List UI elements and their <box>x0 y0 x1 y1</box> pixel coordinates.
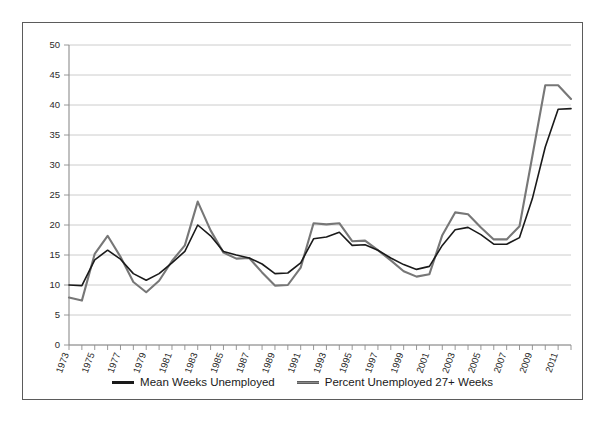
x-tick-label: 1983 <box>182 351 200 375</box>
y-tick-label: 10 <box>49 279 60 290</box>
y-tick-label: 30 <box>49 159 60 170</box>
x-tick-label: 1991 <box>285 351 303 375</box>
x-tick-label: 2003 <box>439 351 457 375</box>
x-tick-label: 1985 <box>208 351 226 375</box>
y-tick-label: 45 <box>49 69 60 80</box>
legend-item-percent-unemployed-27-weeks: Percent Unemployed 27+ Weeks <box>297 376 493 388</box>
x-tick-label: 1989 <box>259 351 277 375</box>
y-tick-label: 15 <box>49 249 60 260</box>
x-tick-label: 1997 <box>362 351 380 375</box>
x-tick-label: 1975 <box>79 351 97 375</box>
chart-figure: 05101520253035404550 1973197519771979198… <box>22 22 583 400</box>
x-tick-label: 1981 <box>156 351 174 375</box>
chart-legend: Mean Weeks Unemployed Percent Unemployed… <box>23 373 582 391</box>
x-tick-label: 2007 <box>491 351 509 375</box>
x-tick-label: 1977 <box>105 351 123 375</box>
series-lines <box>69 85 571 300</box>
y-tick-label: 35 <box>49 129 60 140</box>
x-tick-label: 2011 <box>543 351 560 374</box>
y-tick-label: 25 <box>49 189 60 200</box>
line-chart-plot: 05101520253035404550 1973197519771979198… <box>23 23 581 398</box>
x-tick-label: 2005 <box>465 351 483 375</box>
legend-item-mean-weeks-unemployed: Mean Weeks Unemployed <box>112 376 275 388</box>
x-tick-label: 1979 <box>131 351 149 375</box>
x-tick-label: 1995 <box>336 351 354 375</box>
y-tick-label: 0 <box>55 339 60 350</box>
y-tick-label: 50 <box>49 39 60 50</box>
x-tick-label: 1987 <box>234 351 252 375</box>
x-tick-label: 2001 <box>414 351 432 375</box>
x-axis: 1973197519771979198119831985198719891991… <box>53 345 571 375</box>
legend-label-mean-weeks-unemployed: Mean Weeks Unemployed <box>140 376 275 388</box>
legend-swatch-mean-weeks-unemployed <box>112 381 134 384</box>
x-tick-label: 2009 <box>517 351 535 375</box>
series-line-percent-unemployed-27-weeks <box>69 85 571 300</box>
x-tick-label: 1973 <box>53 351 71 375</box>
y-axis: 05101520253035404550 <box>49 39 69 350</box>
legend-label-percent-unemployed-27-weeks: Percent Unemployed 27+ Weeks <box>325 376 493 388</box>
x-tick-label: 1993 <box>311 351 329 375</box>
x-tick-label: 1999 <box>388 351 406 375</box>
y-tick-label: 20 <box>49 219 60 230</box>
y-tick-label: 5 <box>55 309 60 320</box>
y-tick-label: 40 <box>49 99 60 110</box>
gridlines <box>69 45 571 345</box>
legend-swatch-percent-unemployed-27-weeks <box>297 381 319 384</box>
